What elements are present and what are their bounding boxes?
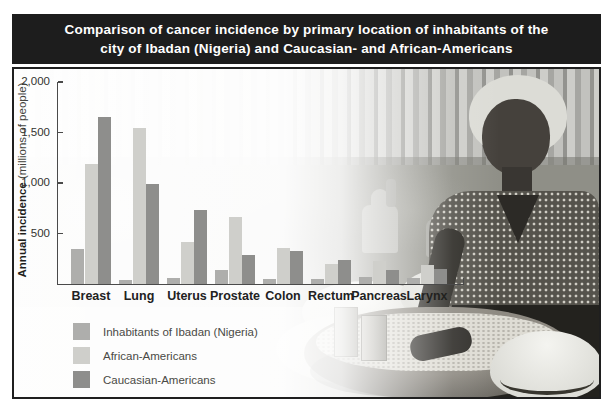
legend-item: Caucasian-Americans (73, 371, 258, 388)
x-axis-end-tick (463, 278, 465, 284)
bar-group-rectum (311, 260, 351, 284)
legend-swatch (73, 323, 90, 340)
bar (290, 251, 303, 284)
bar-group-pancreas (359, 261, 399, 284)
bar (194, 210, 207, 284)
y-tick-label: 2,000 (12, 75, 50, 87)
bar-group-breast (71, 117, 111, 284)
bar (277, 248, 290, 284)
bar (133, 128, 146, 284)
bar (263, 279, 276, 284)
bar (71, 249, 84, 284)
bar-group-colon (263, 248, 303, 284)
legend-label: African-Americans (103, 350, 197, 362)
bar (229, 217, 242, 284)
legend-swatch (73, 347, 90, 364)
bar (242, 255, 255, 284)
bar (407, 278, 420, 284)
x-category-label: Larynx (397, 289, 457, 303)
bar (146, 184, 159, 284)
bar-group-lung (119, 128, 159, 284)
bar (215, 270, 228, 284)
bar (119, 280, 132, 284)
bar (311, 279, 324, 284)
legend-label: Inhabitants of Ibadan (Nigeria) (103, 326, 258, 338)
bar (181, 242, 194, 284)
y-tick-label: 1,000 (12, 176, 50, 188)
y-tick-mark (58, 81, 63, 83)
plot-area: Annual incidence (millions of people) 50… (57, 82, 464, 285)
chart-title-line2: city of Ibadan (Nigeria) and Caucasian- … (100, 39, 512, 58)
bar (85, 164, 98, 284)
y-tick-mark (58, 132, 63, 134)
chart-title-line1: Comparison of cancer incidence by primar… (65, 20, 549, 39)
legend: Inhabitants of Ibadan (Nigeria)African-A… (73, 323, 258, 395)
bar (167, 278, 180, 284)
bar (338, 260, 351, 284)
bar-group-larynx (407, 265, 447, 284)
cancer-incidence-figure: Comparison of cancer incidence by primar… (12, 14, 601, 399)
y-tick-label: 1,500 (12, 126, 50, 138)
y-tick-mark (58, 233, 63, 235)
legend-item: Inhabitants of Ibadan (Nigeria) (73, 323, 258, 340)
bar (373, 261, 386, 284)
legend-item: African-Americans (73, 347, 258, 364)
photo-panel: Annual incidence (millions of people) 50… (12, 67, 601, 399)
legend-swatch (73, 371, 90, 388)
legend-label: Caucasian-Americans (103, 374, 216, 386)
bar (359, 277, 372, 284)
bar (325, 264, 338, 284)
y-tick-mark (58, 182, 63, 184)
bar (421, 265, 434, 284)
bar (434, 269, 447, 284)
y-tick-label: 500 (12, 227, 50, 239)
bar (386, 270, 399, 284)
bar (98, 117, 111, 284)
chart-title: Comparison of cancer incidence by primar… (12, 14, 601, 64)
bar-group-uterus (167, 210, 207, 284)
bar-chart: Annual incidence (millions of people) 50… (14, 69, 599, 397)
bar-group-prostate (215, 217, 255, 284)
